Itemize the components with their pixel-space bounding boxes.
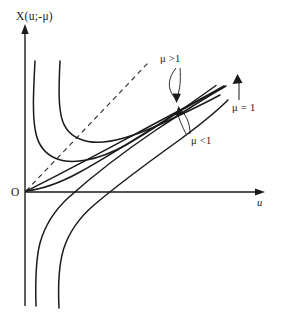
mu-less-arrowhead [175, 106, 183, 116]
mu-greater-pointer-right [177, 68, 180, 97]
curve-family-group [26, 61, 228, 308]
annotation-mu-equal: μ = 1 [232, 74, 256, 113]
mu-less-label: μ <1 [191, 135, 212, 146]
y-axis-arrowhead [21, 24, 28, 34]
mu-greater-arrowhead [172, 94, 181, 103]
oblique-asymptote-group [26, 63, 148, 191]
axes-group [21, 24, 265, 306]
mu-greater-pointer-left [169, 68, 176, 97]
plot-canvas: μ >1 μ <1 μ = 1 X(u;-μ) u O [0, 0, 283, 313]
y-axis-label: X(u;-μ) [16, 10, 53, 23]
annotation-mu-less: μ <1 [175, 106, 211, 146]
origin-label: O [11, 186, 20, 198]
curve-mu-less-lower-a [36, 86, 226, 306]
mu-greater-label: μ >1 [160, 53, 181, 64]
annotation-mu-greater: μ >1 [160, 53, 181, 103]
mu-less-pointer-right [182, 111, 190, 134]
x-axis-arrowhead [255, 188, 265, 195]
axis-labels-group: X(u;-μ) u O [11, 10, 263, 208]
oblique-asymptote-line [26, 63, 148, 191]
figure-root: μ >1 μ <1 μ = 1 X(u;-μ) u O [0, 0, 283, 313]
mu-equal-label: μ = 1 [232, 102, 256, 113]
x-axis-label: u [257, 197, 263, 208]
mu-equal-arrowhead [233, 74, 243, 84]
